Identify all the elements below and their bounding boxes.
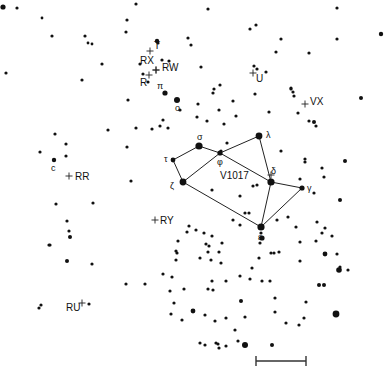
label-RU: RU bbox=[66, 303, 80, 313]
star-dot bbox=[204, 242, 207, 245]
star-dot bbox=[213, 319, 216, 322]
star-dot bbox=[225, 141, 228, 144]
star-dot bbox=[269, 251, 272, 254]
star-dot bbox=[359, 96, 363, 100]
constellation-lines bbox=[173, 136, 302, 227]
star-dot bbox=[195, 115, 198, 118]
constellation-line bbox=[261, 188, 302, 227]
label-sigma: σ bbox=[197, 133, 203, 142]
star-dot bbox=[211, 91, 214, 94]
star-dot bbox=[38, 150, 41, 153]
star-dot bbox=[4, 71, 7, 74]
star-dot bbox=[250, 266, 253, 269]
star-dot bbox=[239, 299, 243, 303]
star-dot bbox=[65, 219, 68, 222]
star-dot bbox=[312, 120, 316, 124]
star-dot bbox=[338, 198, 342, 202]
star-dot bbox=[129, 179, 132, 182]
star-dot bbox=[126, 98, 129, 101]
star-dot bbox=[83, 34, 86, 37]
label-lambda: λ bbox=[266, 131, 271, 140]
star-dot bbox=[247, 211, 250, 214]
star-dot bbox=[333, 311, 340, 318]
star-dot bbox=[211, 288, 214, 291]
star-dot bbox=[212, 87, 215, 90]
star-dot bbox=[174, 249, 177, 252]
star-dot bbox=[91, 43, 94, 46]
variable-star-cross-icon bbox=[152, 217, 159, 224]
star-dot bbox=[236, 339, 239, 342]
star-dot bbox=[209, 258, 212, 261]
star-dot bbox=[90, 262, 93, 265]
star-dot bbox=[264, 70, 267, 73]
star-dot bbox=[297, 323, 300, 326]
star-dot bbox=[203, 313, 206, 316]
star-dot bbox=[206, 287, 209, 290]
star-dot bbox=[296, 111, 299, 114]
star-dot bbox=[302, 316, 305, 319]
star-dot bbox=[47, 243, 50, 246]
star-dot bbox=[217, 108, 220, 111]
star-epsilon bbox=[257, 223, 264, 230]
star-dot bbox=[220, 241, 223, 244]
star-sigma bbox=[195, 142, 202, 149]
star-dot bbox=[206, 250, 209, 253]
star-dot bbox=[304, 300, 307, 303]
star-dot bbox=[320, 166, 323, 169]
star-dot bbox=[322, 175, 325, 178]
star-dot bbox=[298, 177, 301, 180]
star-dot bbox=[303, 157, 306, 160]
star-dot bbox=[273, 310, 276, 313]
constellation-line bbox=[271, 182, 302, 188]
star-dot bbox=[180, 318, 183, 321]
star-dot bbox=[202, 231, 205, 234]
star-zeta bbox=[180, 179, 187, 186]
star-dot bbox=[161, 118, 164, 121]
star-dot bbox=[87, 42, 90, 45]
label-tau: τ bbox=[164, 155, 168, 164]
star-dot bbox=[273, 296, 276, 299]
star-dot bbox=[224, 279, 227, 282]
star-dot bbox=[199, 65, 202, 68]
star-dot bbox=[205, 119, 208, 122]
star-dot bbox=[217, 346, 220, 349]
star-dot bbox=[279, 149, 282, 152]
constellation-line bbox=[173, 146, 199, 160]
star-dot bbox=[168, 289, 171, 292]
star-dot bbox=[335, 37, 338, 40]
star-dot bbox=[80, 78, 83, 81]
star-dot bbox=[338, 265, 341, 268]
star-dot bbox=[150, 127, 153, 130]
label-epsilon: ε bbox=[258, 233, 262, 242]
star-dot bbox=[134, 126, 137, 129]
variable-star-markers bbox=[66, 48, 309, 307]
star-dot bbox=[158, 124, 161, 127]
star-dot bbox=[87, 302, 90, 305]
constellation-line bbox=[220, 136, 259, 153]
label-V1017: V1017 bbox=[220, 171, 249, 181]
star-dot bbox=[307, 51, 310, 54]
label-RY: RY bbox=[160, 216, 174, 226]
star-dot bbox=[243, 315, 246, 318]
constellation-line bbox=[183, 153, 220, 182]
label-R: R bbox=[140, 78, 147, 88]
star-dot bbox=[270, 343, 274, 347]
variable-star-cross-icon bbox=[66, 173, 73, 180]
star-dot bbox=[100, 62, 103, 65]
star-dot bbox=[15, 6, 18, 9]
star-dot bbox=[320, 231, 323, 234]
label-RX: RX bbox=[140, 56, 154, 66]
label-gamma: γ bbox=[307, 184, 312, 193]
star-dot bbox=[194, 228, 197, 231]
star-dot bbox=[231, 99, 234, 102]
star-dot bbox=[298, 259, 301, 262]
star-dot bbox=[254, 23, 257, 26]
star-chart bbox=[0, 0, 390, 371]
star-dot bbox=[291, 90, 294, 93]
star-dot bbox=[210, 279, 213, 282]
star-dot bbox=[292, 94, 295, 97]
star-dot bbox=[141, 72, 144, 75]
constellation-line bbox=[173, 160, 183, 182]
star-delta bbox=[267, 178, 274, 185]
star-dot bbox=[298, 240, 301, 243]
